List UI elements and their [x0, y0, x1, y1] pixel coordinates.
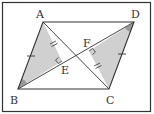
- label-a: A: [35, 8, 45, 21]
- figure-frame: [3, 3, 151, 112]
- label-c: C: [106, 94, 114, 107]
- parallelogram-diagram: A D B C E F: [0, 0, 154, 114]
- label-e: E: [61, 64, 69, 77]
- label-d: D: [131, 8, 140, 21]
- label-b: B: [10, 94, 18, 107]
- label-f: F: [83, 37, 91, 50]
